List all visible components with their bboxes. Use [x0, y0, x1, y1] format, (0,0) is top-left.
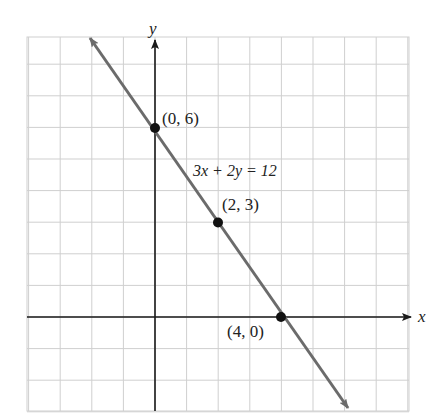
point-4-0 [276, 312, 286, 322]
equation-label: 3x + 2y = 12 [192, 162, 277, 180]
point-label-4-0: (4, 0) [227, 322, 264, 341]
line-graph: y x (0, 6) (2, 3) (4, 0) 3x + 2y = 12 [0, 0, 432, 415]
x-axis-label: x [417, 307, 426, 326]
y-axis-label: y [147, 19, 157, 38]
point-2-3 [213, 218, 223, 228]
point-label-2-3: (2, 3) [222, 195, 259, 214]
point-0-6 [150, 123, 160, 133]
point-label-0-6: (0, 6) [162, 109, 199, 128]
